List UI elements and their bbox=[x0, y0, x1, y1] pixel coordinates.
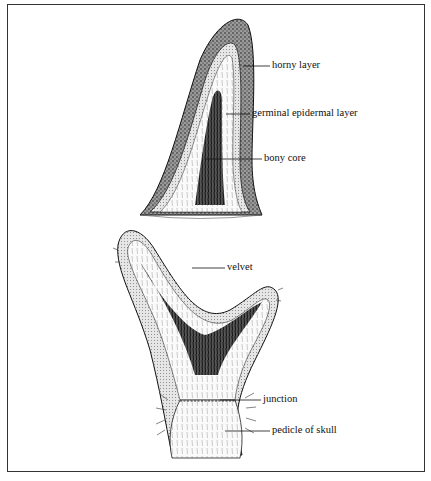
label-bony-core: bony core bbox=[264, 153, 306, 164]
label-horny-layer: horny layer bbox=[272, 60, 320, 71]
label-junction: junction bbox=[263, 394, 297, 405]
label-velvet: velvet bbox=[227, 262, 253, 273]
label-pedicle-of-skull: pedicle of skull bbox=[272, 425, 337, 436]
antler-drawing bbox=[113, 231, 283, 458]
horn-drawing bbox=[140, 19, 262, 218]
label-germinal-epidermal-layer: germinal epidermal layer bbox=[252, 108, 358, 119]
illustration bbox=[0, 0, 431, 481]
